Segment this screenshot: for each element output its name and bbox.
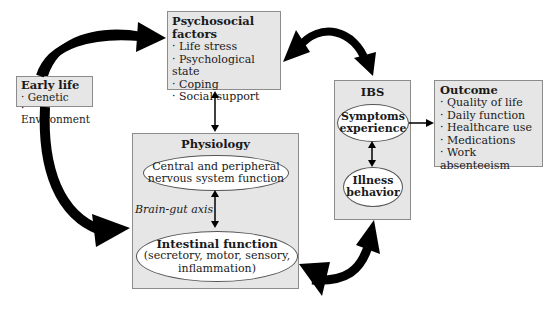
ibs-to-outcome-arrow <box>409 119 434 127</box>
symptoms-line2: experience <box>340 123 407 136</box>
early-to-psychosocial-arrow <box>40 22 166 76</box>
early-life-item: Environment <box>21 103 88 125</box>
outcome-item: Quality of life <box>440 97 537 110</box>
psychosocial-title: Psychosocial factors <box>172 15 276 41</box>
psychosocial-item: Psychological state <box>172 54 276 79</box>
early-life-item: Genetic <box>21 92 88 103</box>
psychosocial-item: Social support <box>172 91 276 104</box>
illness-line2: behavior <box>346 187 400 200</box>
intestinal-line1: (secretory, motor, sensory, <box>144 250 291 263</box>
early-to-physiology-arrow <box>45 107 130 247</box>
physiology-ibs-double-arrow <box>299 220 380 296</box>
intestinal-line2: inflammation) <box>178 263 256 276</box>
physiology-box: Physiology Central and peripheral nervou… <box>132 133 299 289</box>
symptoms-experience-ellipse: Symptoms experience <box>337 104 409 142</box>
ibs-title: IBS <box>335 86 410 99</box>
early-life-box: Early life Genetic Environment <box>16 76 93 107</box>
psychosocial-box: Psychosocial factors Life stress Psychol… <box>167 11 281 90</box>
psychosocial-ibs-double-arrow <box>283 30 376 76</box>
ibs-box: IBS Symptoms experience Illness behavior <box>334 80 411 220</box>
cns-function-ellipse: Central and peripheral nervous system fu… <box>143 155 289 191</box>
illness-behavior-ellipse: Illness behavior <box>343 167 403 207</box>
cns-line2: nervous system function <box>148 173 284 186</box>
psychosocial-item: Life stress <box>172 41 276 54</box>
intestinal-function-ellipse: Intestinal function (secretory, motor, s… <box>136 231 298 282</box>
outcome-box: Outcome Quality of life Daily function H… <box>434 80 543 167</box>
brain-gut-axis-label: Brain-gut axis <box>135 203 213 216</box>
outcome-item: Healthcare use <box>440 122 537 135</box>
outcome-item: Work absenteeism <box>440 147 537 172</box>
physiology-title: Physiology <box>133 138 298 151</box>
